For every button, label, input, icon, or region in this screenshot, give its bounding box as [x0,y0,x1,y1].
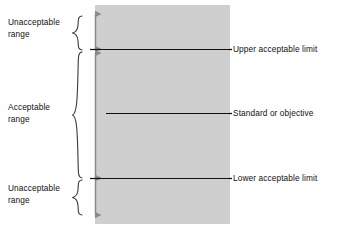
standard-line [106,113,230,114]
label-line-1: Unacceptable [8,17,70,29]
callout-upper-acceptable-limit: Upper acceptable limit [233,44,317,54]
brace-unacceptable-upper [73,16,83,50]
label-line-1: Unacceptable [8,183,70,195]
label-line-2: range [8,195,70,207]
lower-limit-line [97,178,230,179]
label-unacceptable-lower: Unacceptable range [8,183,70,206]
callout-lower-acceptable-limit: Lower acceptable limit [233,173,317,183]
label-unacceptable-upper: Unacceptable range [8,17,70,40]
label-acceptable: Acceptable range [8,102,70,125]
range-braces [73,16,83,215]
brace-unacceptable-lower [73,180,83,215]
label-line-2: range [8,114,70,126]
diagram-canvas: Unacceptable range Acceptable range Unac… [0,0,343,237]
upper-limit-line [97,49,230,50]
brace-acceptable [73,52,83,178]
process-band [95,5,230,224]
label-line-2: range [8,29,70,41]
label-line-1: Acceptable [8,102,70,114]
callout-standard-or-objective: Standard or objective [233,108,314,118]
